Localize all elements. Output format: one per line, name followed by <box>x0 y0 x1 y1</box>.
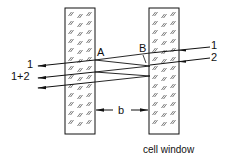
outgoing-beam-1plus2-label: 1+2 <box>11 70 30 82</box>
left-window-plate <box>65 8 95 134</box>
caption: cell window <box>143 144 195 155</box>
point-b-label: B <box>139 42 146 54</box>
incoming-beam-1-label: 1 <box>211 39 217 51</box>
diagram-canvas: A B b 1 2 1 1+2 cell window <box>0 0 232 158</box>
cell-window-diagram: A B b 1 2 1 1+2 cell window <box>0 0 232 158</box>
outgoing-beam-1-label: 1 <box>27 58 33 70</box>
right-window-plate <box>149 8 179 134</box>
gap-b-label: b <box>118 104 124 116</box>
incoming-beam-2-label: 2 <box>211 51 217 63</box>
point-a-label: A <box>97 46 105 58</box>
